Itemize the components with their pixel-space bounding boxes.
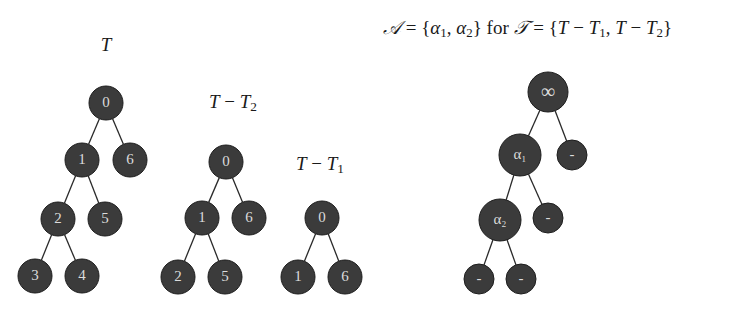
node-label: 5 — [101, 210, 109, 226]
tree-node: 0 — [209, 145, 243, 179]
tree-edge — [304, 234, 315, 262]
tree-t-t2: 01625 — [161, 145, 266, 294]
tree-edge — [506, 175, 514, 200]
tree-edge — [88, 176, 99, 203]
tree-title: T − T1 — [296, 153, 344, 177]
node-label: α₁ — [513, 146, 526, 162]
tree-title: T − T2 — [209, 91, 257, 115]
node-label: 2 — [174, 268, 182, 284]
tree-node: - — [506, 264, 536, 294]
tree-edge — [328, 234, 339, 261]
set-T-symbol: 𝒯 — [514, 17, 529, 38]
node-label: - — [519, 270, 524, 286]
tree-node: α₁ — [499, 134, 541, 176]
tree-node: 1 — [65, 143, 99, 177]
tree-t: 0162534 — [18, 86, 147, 293]
tree-title: T — [101, 34, 112, 56]
node-label: - — [546, 209, 551, 225]
tree-edge — [113, 119, 124, 145]
tree-edge — [41, 235, 51, 260]
tree-node: 5 — [208, 260, 242, 294]
diagram-canvas: 𝒜 = {α1, α2} for 𝒯 = {T − T1, T − T2} TT… — [0, 0, 733, 310]
tree-node: - — [464, 264, 494, 294]
tree-node: 4 — [65, 259, 99, 293]
for-word: for — [487, 17, 509, 38]
tree-edge — [89, 119, 100, 145]
node-label: - — [477, 270, 482, 286]
node-label: 1 — [294, 268, 302, 284]
tree-node: 6 — [232, 201, 266, 235]
set-A-symbol: 𝒜 — [383, 17, 401, 38]
tree-edge — [529, 110, 540, 136]
tree-a: ∞α₁-α₂--- — [464, 72, 587, 294]
header-formula: 𝒜 = {α1, α2} for 𝒯 = {T − T1, T − T2} — [383, 17, 672, 41]
tree-edge — [209, 178, 220, 203]
tree-node: 0 — [89, 86, 123, 120]
node-label: α₂ — [493, 211, 506, 227]
tree-node: 6 — [328, 260, 362, 294]
node-label: 0 — [102, 94, 110, 110]
node-label: ∞ — [541, 80, 555, 102]
node-label: 0 — [318, 209, 326, 225]
tree-t-t1: 016 — [281, 201, 362, 294]
tree-node: ∞ — [528, 72, 568, 112]
node-label: 5 — [221, 268, 229, 284]
tree-node: 6 — [113, 143, 147, 177]
tree-node: - — [557, 140, 587, 170]
node-label: 4 — [78, 267, 86, 283]
node-label: 6 — [245, 209, 253, 225]
tree-node: 1 — [281, 260, 315, 294]
tree-node: - — [533, 203, 563, 233]
tree-node: 5 — [88, 202, 122, 236]
tree-node: 2 — [161, 260, 195, 294]
node-label: 3 — [31, 267, 39, 283]
tree-edge — [507, 240, 516, 265]
tree-edge — [232, 178, 242, 203]
tree-edge — [484, 240, 493, 265]
node-label: 0 — [222, 153, 230, 169]
tree-edge — [208, 234, 219, 261]
node-label: 6 — [341, 268, 349, 284]
node-label: 2 — [54, 210, 62, 226]
node-label: 6 — [126, 151, 134, 167]
tree-edge — [184, 234, 195, 262]
tree-edge — [64, 176, 75, 204]
tree-edge — [529, 174, 542, 204]
node-label: - — [570, 146, 575, 162]
tree-node: α₂ — [479, 199, 521, 241]
node-label: 1 — [198, 209, 206, 225]
tree-edge — [65, 235, 76, 261]
tree-edge — [555, 111, 567, 141]
node-label: 1 — [78, 151, 86, 167]
tree-node: 0 — [305, 201, 339, 235]
tree-node: 3 — [18, 259, 52, 293]
tree-node: 2 — [41, 202, 75, 236]
tree-node: 1 — [185, 201, 219, 235]
